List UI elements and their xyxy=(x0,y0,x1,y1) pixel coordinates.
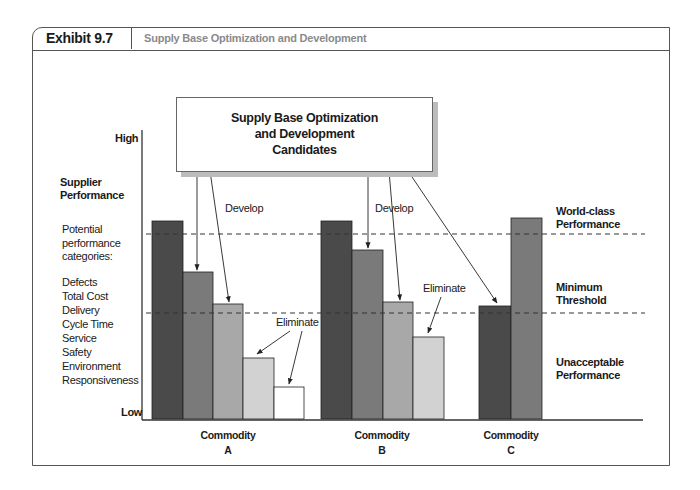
y-axis-high-label: High xyxy=(115,132,138,145)
performance-categories-list: Defects Total Cost Delivery Cycle Time S… xyxy=(62,275,139,387)
commodity-c-line-1: Commodity xyxy=(471,428,551,443)
world-class-label-line-1: World-class xyxy=(556,205,620,218)
commodity-a-line-1: Commodity xyxy=(188,428,268,443)
category-item: Delivery xyxy=(62,303,139,317)
unacceptable-label-line-1: Unacceptable xyxy=(556,356,624,369)
develop-label-b: Develop xyxy=(375,202,413,215)
world-class-label: World-class Performance xyxy=(556,205,620,232)
categories-intro-line-2: performance xyxy=(62,237,120,251)
minimum-threshold-label-line-1: Minimum xyxy=(556,281,606,294)
commodity-c-line-2: C xyxy=(471,443,551,458)
commodity-b-line-1: Commodity xyxy=(342,428,422,443)
callout-line-3: Candidates xyxy=(177,142,432,158)
bar-c1 xyxy=(479,306,511,419)
bar-a1 xyxy=(152,221,183,419)
commodity-b-label: Commodity B xyxy=(342,428,422,458)
category-item: Safety xyxy=(62,345,139,359)
callout-line-2: and Development xyxy=(177,126,432,142)
commodity-a-label: Commodity A xyxy=(188,428,268,458)
bar-a2 xyxy=(183,272,213,419)
candidates-callout: Supply Base Optimization and Development… xyxy=(176,97,433,172)
eliminate-arrow-a5 xyxy=(289,331,302,384)
commodity-a-line-2: A xyxy=(188,443,268,458)
commodity-c-label: Commodity C xyxy=(471,428,551,458)
eliminate-arrow-a4 xyxy=(257,331,290,354)
bar-a5 xyxy=(274,387,304,419)
develop-label-a: Develop xyxy=(225,202,263,215)
eliminate-label-b: Eliminate xyxy=(423,282,466,295)
bar-a4 xyxy=(243,358,274,419)
unacceptable-label: Unacceptable Performance xyxy=(556,356,624,383)
bar-a3 xyxy=(213,304,243,419)
eliminate-arrow-b4 xyxy=(428,297,441,333)
y-axis-low-label: Low xyxy=(121,406,142,419)
category-item: Service xyxy=(62,331,139,345)
develop-arrow-b3 xyxy=(389,171,400,300)
bar-b4 xyxy=(413,337,444,419)
commodity-b-bars xyxy=(321,221,444,419)
y-axis-title-line-2: Performance xyxy=(60,189,124,202)
categories-intro-line-3: categories: xyxy=(62,250,120,264)
category-item: Cycle Time xyxy=(62,317,139,331)
minimum-threshold-label-line-2: Threshold xyxy=(556,294,606,307)
category-item: Environment xyxy=(62,359,139,373)
unacceptable-label-line-2: Performance xyxy=(556,369,624,382)
y-axis-title: Supplier Performance xyxy=(60,176,124,203)
eliminate-label-a: Eliminate xyxy=(276,316,319,329)
world-class-label-line-2: Performance xyxy=(556,218,620,231)
categories-intro-line-1: Potential xyxy=(62,223,120,237)
minimum-threshold-label: Minimum Threshold xyxy=(556,281,606,308)
categories-intro: Potential performance categories: xyxy=(62,223,120,264)
callout-line-1: Supply Base Optimization xyxy=(177,110,432,126)
commodity-b-line-2: B xyxy=(342,443,422,458)
bar-b3 xyxy=(383,302,413,419)
bar-b1 xyxy=(321,221,352,419)
bar-b2 xyxy=(352,250,383,419)
commodity-c-bars xyxy=(479,218,542,419)
bar-c2 xyxy=(511,218,542,419)
category-item: Total Cost xyxy=(62,289,139,303)
y-axis-title-line-1: Supplier xyxy=(60,176,124,189)
category-item: Defects xyxy=(62,275,139,289)
category-item: Responsiveness xyxy=(62,373,139,387)
